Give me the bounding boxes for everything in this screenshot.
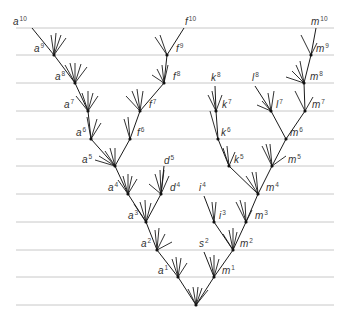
stub-m1 bbox=[210, 257, 214, 277]
label-m2: m2 bbox=[240, 237, 253, 249]
node-a6 bbox=[89, 137, 92, 140]
stub-a8 bbox=[75, 67, 87, 83]
node-k5 bbox=[227, 164, 230, 167]
node-f9 bbox=[165, 53, 168, 56]
stub-i3 bbox=[214, 202, 216, 222]
stub-a7 bbox=[88, 93, 93, 111]
label-m9: m9 bbox=[316, 42, 329, 54]
branch-a4-a5 bbox=[115, 166, 128, 194]
stub-a7 bbox=[88, 96, 98, 111]
node-m1 bbox=[212, 275, 215, 278]
label-f7: f7 bbox=[149, 98, 157, 110]
label-a10: a10 bbox=[13, 15, 27, 27]
branch-f8-f9 bbox=[164, 55, 167, 83]
branch-f7-f8 bbox=[140, 83, 164, 111]
node-m2 bbox=[231, 248, 234, 251]
stub-l7 bbox=[271, 91, 274, 111]
node-a3 bbox=[144, 220, 147, 223]
node-k7 bbox=[214, 109, 217, 112]
stub-a6 bbox=[91, 119, 97, 139]
branch-a3-d4 bbox=[146, 194, 161, 222]
branch-m5-m6 bbox=[272, 139, 286, 166]
stub-m9 bbox=[301, 35, 311, 55]
node-a5 bbox=[113, 164, 116, 167]
branch-root-m1 bbox=[196, 277, 214, 305]
extinct-branch-stubs bbox=[51, 33, 317, 305]
stub-f9 bbox=[160, 35, 167, 55]
stub-f9 bbox=[155, 37, 167, 55]
label-m8: m8 bbox=[310, 70, 323, 82]
stub-m3 bbox=[246, 210, 252, 222]
phylogenetic-tree-diagram: a10a9a8a7a6a5a4a3a2a1f10f9f8f7f6d5d4k8k7… bbox=[0, 0, 351, 323]
branch-m6-l7 bbox=[271, 111, 286, 139]
stub-a3 bbox=[146, 203, 151, 222]
label-a8: a8 bbox=[55, 70, 66, 82]
label-m4: m4 bbox=[266, 181, 279, 193]
node-m3 bbox=[244, 220, 247, 223]
node-m4 bbox=[256, 192, 259, 195]
node-m5 bbox=[270, 164, 273, 167]
label-a3: a3 bbox=[128, 209, 139, 221]
node-root bbox=[194, 303, 197, 306]
stub-a6 bbox=[91, 123, 101, 139]
label-k5: k5 bbox=[234, 153, 244, 165]
label-k8: k8 bbox=[211, 71, 221, 83]
label-m3: m3 bbox=[255, 209, 268, 221]
node-d4 bbox=[159, 192, 162, 195]
node-f7 bbox=[138, 109, 141, 112]
label-f10: f10 bbox=[185, 15, 196, 27]
label-i4: i4 bbox=[199, 181, 206, 193]
node-m9 bbox=[309, 53, 312, 56]
stub-a8 bbox=[65, 65, 75, 83]
node-m8 bbox=[302, 81, 305, 84]
label-a9: a9 bbox=[34, 42, 45, 54]
stub-m2 bbox=[233, 232, 237, 250]
label-s2: s2 bbox=[199, 237, 209, 249]
node-f6 bbox=[128, 137, 131, 140]
branch-m7-m8 bbox=[304, 83, 305, 111]
label-f6: f6 bbox=[137, 126, 145, 138]
stub-a8 bbox=[75, 64, 81, 83]
stub-a7 bbox=[82, 93, 88, 111]
branch-a5-f6 bbox=[115, 139, 130, 166]
label-l7: l7 bbox=[276, 98, 283, 110]
label-m1: m1 bbox=[222, 264, 235, 276]
node-f8 bbox=[162, 81, 165, 84]
label-l8: l8 bbox=[252, 71, 259, 83]
label-k6: k6 bbox=[221, 126, 231, 138]
node-a7 bbox=[86, 109, 89, 112]
label-k7: k7 bbox=[222, 98, 232, 110]
label-f9: f9 bbox=[176, 42, 184, 54]
label-f8: f8 bbox=[173, 70, 181, 82]
node-a8 bbox=[73, 81, 76, 84]
label-a6: a6 bbox=[76, 126, 87, 138]
label-i3: i3 bbox=[219, 209, 226, 221]
stub-m7 bbox=[295, 91, 305, 111]
label-m5: m5 bbox=[288, 153, 301, 165]
label-a4: a4 bbox=[108, 181, 119, 193]
node-a4 bbox=[126, 192, 129, 195]
node-i3 bbox=[212, 220, 215, 223]
label-a7: a7 bbox=[64, 98, 75, 110]
node-l7 bbox=[269, 109, 272, 112]
branch-m1-s2 bbox=[204, 252, 214, 277]
stub-a9 bbox=[54, 38, 66, 55]
node-a2 bbox=[155, 248, 158, 251]
label-d5: d5 bbox=[164, 154, 175, 166]
label-a1: a1 bbox=[158, 264, 169, 276]
branch-m4-k5 bbox=[229, 166, 258, 194]
label-m10: m10 bbox=[311, 15, 328, 27]
label-a5: a5 bbox=[82, 153, 93, 165]
node-labels: a10a9a8a7a6a5a4a3a2a1f10f9f8f7f6d5d4k8k7… bbox=[13, 15, 329, 276]
label-m6: m6 bbox=[290, 126, 303, 138]
label-a2: a2 bbox=[141, 237, 152, 249]
label-d4: d4 bbox=[170, 181, 181, 193]
node-k6 bbox=[216, 137, 219, 140]
node-m7 bbox=[303, 109, 306, 112]
label-m7: m7 bbox=[312, 98, 325, 110]
node-m6 bbox=[284, 137, 287, 140]
node-a1 bbox=[176, 275, 179, 278]
node-a9 bbox=[52, 53, 55, 56]
